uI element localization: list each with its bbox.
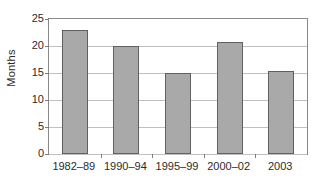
x-tick-mark [152,154,153,158]
bar [62,30,88,154]
bar-slot [101,19,153,154]
gridline [49,154,307,155]
x-tick-label: 1995–99 [156,160,199,172]
bar-slot [255,19,307,154]
y-tick-label: 0 [20,147,44,159]
x-tick-mark [255,154,256,158]
bar-chart: Months 0510152025 1982–891990–941995–992… [0,0,316,185]
bar [165,73,191,154]
y-axis-title: Months [5,33,17,103]
y-tick-mark [45,154,49,155]
x-tick-label: 2003 [268,160,292,172]
x-axis-tick-labels: 1982–891990–941995–992000–022003 [48,160,308,176]
bar-slot [152,19,204,154]
x-tick-label: 2000–02 [207,160,250,172]
x-tick-mark [204,154,205,158]
bar [217,42,243,154]
x-tick-mark [101,154,102,158]
y-tick-label: 20 [20,39,44,51]
bar-slot [49,19,101,154]
bar [268,71,294,154]
bar-slot [204,19,256,154]
y-axis-tick-labels: 0510152025 [20,11,44,159]
bar-series [49,19,307,154]
y-tick-label: 15 [20,66,44,78]
bar [113,46,139,154]
y-tick-label: 5 [20,120,44,132]
x-tick-label: 1990–94 [104,160,147,172]
y-tick-label: 25 [20,12,44,24]
y-tick-label: 10 [20,93,44,105]
x-tick-label: 1982–89 [52,160,95,172]
plot-area [48,18,308,155]
